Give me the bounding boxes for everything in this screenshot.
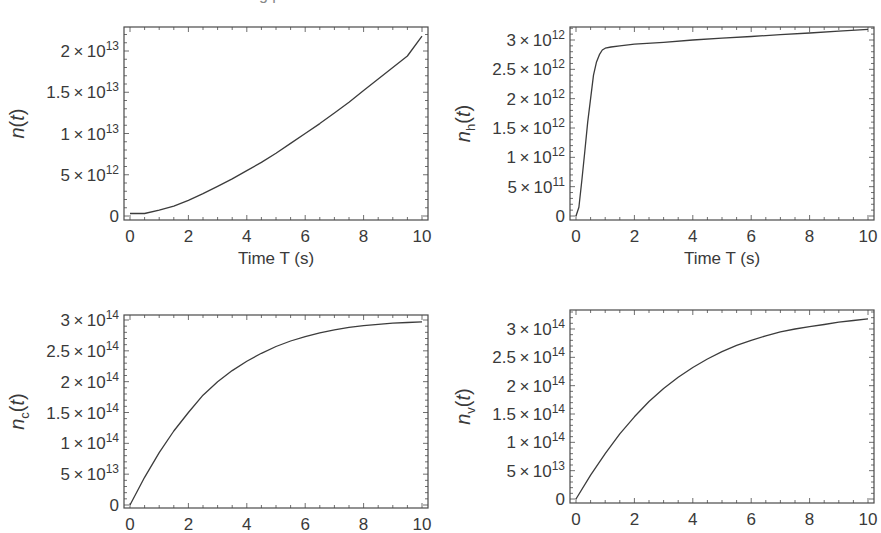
axes-frame	[124, 27, 428, 220]
y-tick-label: 2 × 1014	[507, 374, 566, 396]
x-tick-label: 6	[300, 227, 309, 246]
axes-frame	[570, 310, 874, 503]
panel-nc: 024681005 × 10131 × 10141.5 × 10142 × 10…	[6, 308, 431, 533]
y-tick-label: 0	[110, 207, 119, 226]
y-tick-label: 1.5 × 1013	[46, 80, 119, 102]
x-axis-label: Time T (s)	[238, 249, 314, 268]
x-tick-label: 2	[630, 227, 639, 246]
data-line-nv	[576, 319, 868, 499]
y-tick-label: 0	[556, 207, 565, 226]
y-axis-label: nv(t)	[452, 388, 478, 425]
x-tick-label: 4	[242, 227, 251, 246]
y-tick-label: 2.5 × 1014	[492, 345, 565, 367]
figure-4-panel-grid: g p 024681005 × 10121 × 10131.5 × 10132 …	[0, 0, 881, 533]
x-tick-label: 10	[859, 227, 878, 246]
y-tick-label: 3 × 1014	[61, 308, 120, 330]
y-tick-label: 1 × 1014	[61, 431, 120, 453]
y-tick-label: 5 × 1013	[61, 462, 120, 484]
y-tick-label: 1.5 × 1014	[46, 401, 119, 423]
x-tick-label: 4	[688, 227, 697, 246]
x-tick-label: 8	[359, 515, 368, 533]
x-tick-label: 2	[184, 515, 193, 533]
x-tick-label: 10	[859, 510, 878, 529]
y-tick-label: 2 × 1014	[61, 370, 120, 392]
data-line-nh	[576, 29, 868, 216]
x-tick-label: 4	[688, 510, 697, 529]
y-tick-label: 2.5 × 1012	[492, 57, 565, 79]
panel-nh: 024681005 × 10111 × 10121.5 × 10122 × 10…	[452, 27, 877, 268]
y-tick-label: 1 × 1012	[507, 145, 566, 167]
y-tick-label: 2.5 × 1014	[46, 339, 119, 361]
x-tick-label: 2	[184, 227, 193, 246]
x-tick-label: 6	[300, 515, 309, 533]
y-axis-label: n(t)	[6, 108, 28, 138]
x-tick-label: 0	[125, 227, 134, 246]
y-tick-label: 3 × 1012	[507, 28, 566, 50]
y-tick-label: 2 × 1012	[507, 87, 566, 109]
y-tick-label: 2 × 1013	[61, 39, 120, 61]
x-tick-label: 8	[359, 227, 368, 246]
x-tick-label: 10	[413, 227, 432, 246]
y-tick-label: 0	[110, 496, 119, 515]
y-tick-label: 1 × 1013	[61, 122, 120, 144]
x-tick-label: 0	[571, 510, 580, 529]
x-tick-label: 8	[805, 510, 814, 529]
y-tick-label: 5 × 1012	[61, 163, 120, 185]
x-tick-label: 6	[746, 510, 755, 529]
y-tick-label: 5 × 1013	[507, 459, 566, 481]
panel-nv: 024681005 × 10131 × 10141.5 × 10142 × 10…	[452, 310, 877, 529]
x-tick-label: 0	[125, 515, 134, 533]
y-tick-label: 3 × 1014	[507, 317, 566, 339]
y-tick-label: 0	[556, 490, 565, 509]
x-axis-label: Time T (s)	[684, 249, 760, 268]
x-tick-label: 6	[746, 227, 755, 246]
x-tick-label: 0	[571, 227, 580, 246]
data-line-nc	[130, 322, 422, 505]
y-tick-label: 1 × 1014	[507, 430, 566, 452]
x-tick-label: 2	[630, 510, 639, 529]
plots-canvas: 024681005 × 10121 × 10131.5 × 10132 × 10…	[0, 0, 881, 533]
y-axis-label: nh(t)	[452, 105, 478, 142]
y-tick-label: 5 × 1011	[507, 175, 565, 197]
y-tick-label: 1.5 × 1014	[492, 402, 565, 424]
panel-n: 024681005 × 10121 × 10131.5 × 10132 × 10…	[6, 27, 431, 268]
y-tick-label: 1.5 × 1012	[492, 116, 565, 138]
y-axis-label: nc(t)	[6, 393, 32, 430]
x-tick-label: 4	[242, 515, 251, 533]
x-tick-label: 8	[805, 227, 814, 246]
data-line-n	[130, 36, 422, 213]
x-tick-label: 10	[413, 515, 432, 533]
axes-frame	[570, 27, 874, 220]
axes-frame	[124, 315, 428, 508]
